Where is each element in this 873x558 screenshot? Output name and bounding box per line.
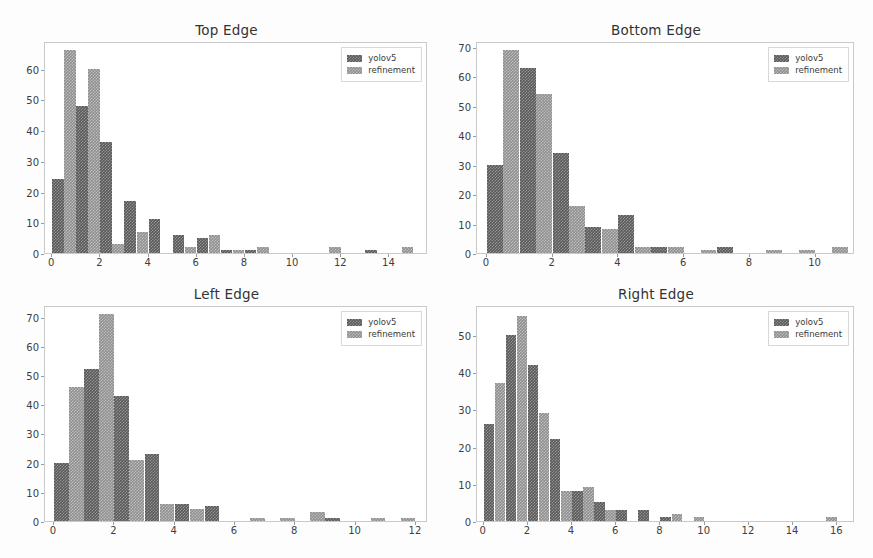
legend-swatch-icon [347,55,362,62]
x-axis-tick-mark [483,522,484,525]
x-axis-tick-label: 10 [348,525,361,536]
x-axis-tick-mark [99,254,100,257]
x-axis-tick-mark [148,254,149,257]
x-axis-tick-label: 4 [144,257,150,268]
y-axis-tick-label: 70 [446,42,471,53]
bar [503,50,519,253]
x-axis-tick-label: 2 [524,525,530,536]
bar [329,247,341,253]
y-axis-tick-mark [473,410,476,411]
y-axis-tick-mark [41,318,44,319]
legend-entry: refinement [347,65,415,76]
subplot-right-edge: Right Edgeyolov5refinement01020304050024… [446,286,866,548]
bar [173,235,185,253]
y-axis-tick-mark [473,254,476,255]
bar [100,142,112,253]
x-axis-tick-mark [292,254,293,257]
y-axis-tick-label: 50 [14,95,39,106]
subplot-top-edge: Top Edgeyolov5refinement0102030405060024… [14,22,439,280]
bar [250,518,265,521]
plot-area: yolov5refinement [44,42,427,254]
legend-label: yolov5 [795,318,823,327]
bar [618,215,634,253]
bar [197,238,209,253]
bar [799,250,815,253]
legend-swatch-icon [774,331,789,338]
x-axis-tick-label: 2 [110,525,116,536]
x-axis-tick-label: 12 [334,257,347,268]
bar [114,396,129,522]
y-axis-tick-mark [473,195,476,196]
bar [54,463,69,521]
subplot-title: Bottom Edge [446,22,866,38]
bar [517,316,528,521]
bar [605,510,616,521]
y-axis-tick-mark [473,448,476,449]
x-axis-tick-mark [388,254,389,257]
legend-entry: yolov5 [347,317,415,328]
y-axis-tick-mark [41,522,44,523]
x-axis-tick-label: 12 [742,525,755,536]
x-axis-tick-mark [294,522,295,525]
y-axis-tick-label: 0 [14,517,39,528]
x-axis-tick-mark [792,522,793,525]
y-axis-tick-label: 0 [446,517,471,528]
bar [129,460,144,521]
y-axis-tick-mark [41,131,44,132]
bar [76,106,88,253]
x-axis-tick-mark [748,522,749,525]
y-axis-tick-label: 20 [14,187,39,198]
bar [660,517,671,521]
bar [717,247,733,253]
x-axis-tick-label: 4 [614,257,620,268]
y-axis-tick-mark [473,336,476,337]
bar [365,250,377,253]
bar [569,206,585,253]
legend-entry: yolov5 [774,53,842,64]
bar [137,232,149,254]
bar [99,314,114,521]
x-axis-tick-mark [174,522,175,525]
legend-swatch-icon [347,319,362,326]
bar [402,247,414,253]
x-axis-tick-label: 10 [808,257,821,268]
bar [583,487,594,521]
bar [539,413,550,521]
x-axis-tick-label: 12 [409,525,422,536]
x-axis-tick-mark [244,254,245,257]
x-axis-tick-mark [196,254,197,257]
bar [245,250,257,253]
x-axis-tick-label: 0 [483,257,489,268]
x-axis-tick-label: 8 [241,257,247,268]
x-axis-tick-label: 14 [786,525,799,536]
bar [69,387,84,521]
y-axis-tick-label: 10 [14,487,39,498]
x-axis-tick-label: 6 [612,525,618,536]
y-axis-tick-mark [41,464,44,465]
bar [64,50,76,253]
bar [52,179,64,253]
y-axis-tick-mark [473,166,476,167]
bar [84,369,99,521]
x-axis-tick-label: 4 [170,525,176,536]
legend: yolov5refinement [341,47,422,82]
legend-label: yolov5 [368,318,396,327]
y-axis-tick-label: 10 [446,219,471,230]
x-axis-tick-label: 2 [548,257,554,268]
y-axis-tick-label: 70 [14,312,39,323]
bar [88,69,100,253]
y-axis-tick-label: 10 [446,479,471,490]
bar [149,219,161,253]
legend-swatch-icon [774,319,789,326]
x-axis-tick-mark [234,522,235,525]
bar [638,510,649,521]
x-axis-tick-mark [415,522,416,525]
x-axis-tick-mark [51,254,52,257]
bar [635,247,651,253]
y-axis-tick-mark [41,434,44,435]
legend-swatch-icon [774,55,789,62]
legend-label: refinement [368,66,415,75]
bar [826,517,837,521]
x-axis-tick-mark [683,254,684,257]
x-axis-tick-label: 14 [382,257,395,268]
